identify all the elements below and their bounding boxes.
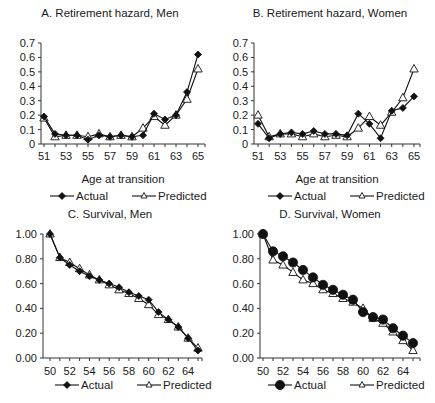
x-tick-label: 60 bbox=[143, 365, 155, 377]
y-tick-label: 0.5 bbox=[233, 66, 248, 78]
data-point-marker bbox=[358, 308, 367, 317]
legend-label-actual: Actual bbox=[81, 379, 113, 391]
data-point-marker bbox=[268, 247, 277, 256]
data-point-marker bbox=[279, 261, 287, 269]
x-tick-label: 56 bbox=[317, 365, 329, 377]
x-tick-label: 62 bbox=[162, 365, 174, 377]
series-predicted bbox=[254, 64, 418, 139]
series-line bbox=[258, 69, 414, 137]
y-tick-label: 0.4 bbox=[20, 80, 35, 92]
x-tick-label: 64 bbox=[182, 365, 194, 377]
data-point-marker bbox=[299, 275, 307, 283]
legend: ActualPredicted bbox=[55, 379, 212, 391]
x-axis-label: Age at transition bbox=[295, 173, 378, 185]
data-point-marker bbox=[368, 312, 377, 321]
x-tick-label: 61 bbox=[148, 150, 160, 162]
x-tick-label: 60 bbox=[357, 365, 369, 377]
legend: ActualPredicted bbox=[50, 190, 207, 202]
chart-title: D. Survival, Women bbox=[279, 208, 380, 220]
x-tick-label: 57 bbox=[104, 150, 116, 162]
legend-label-predicted: Predicted bbox=[376, 379, 425, 391]
y-tick-label: 0 bbox=[242, 138, 248, 150]
data-point-marker bbox=[398, 331, 407, 340]
chart-panel-a: A. Retirement hazard, Men00.10.20.30.40.… bbox=[20, 7, 207, 202]
y-tick-label: 0.00 bbox=[16, 352, 37, 364]
y-tick-label: 0 bbox=[29, 138, 35, 150]
y-tick-label: 0.40 bbox=[16, 302, 37, 314]
y-tick-label: 0.80 bbox=[233, 253, 254, 265]
legend: ActualPredicted bbox=[268, 190, 425, 202]
y-tick-label: 0.60 bbox=[233, 278, 254, 290]
data-point-marker bbox=[348, 295, 357, 304]
y-tick-label: 0.20 bbox=[233, 327, 254, 339]
x-tick-label: 59 bbox=[126, 150, 138, 162]
y-tick-label: 0.00 bbox=[233, 352, 254, 364]
data-point-marker bbox=[328, 285, 337, 294]
x-tick-label: 65 bbox=[192, 150, 204, 162]
x-tick-label: 56 bbox=[103, 365, 115, 377]
y-tick-label: 1.00 bbox=[233, 228, 254, 240]
x-tick-label: 54 bbox=[83, 365, 95, 377]
data-point-marker bbox=[195, 51, 202, 58]
x-tick-label: 53 bbox=[60, 150, 72, 162]
series-actual bbox=[41, 51, 202, 143]
data-point-marker bbox=[288, 258, 297, 267]
x-tick-label: 63 bbox=[386, 150, 398, 162]
x-tick-label: 62 bbox=[377, 365, 389, 377]
data-point-marker bbox=[399, 93, 407, 101]
x-tick-label: 51 bbox=[252, 150, 264, 162]
y-tick-label: 0.1 bbox=[233, 124, 248, 136]
x-tick-label: 58 bbox=[123, 365, 135, 377]
legend-label-actual: Actual bbox=[294, 379, 326, 391]
legend-marker-predicted bbox=[359, 193, 365, 199]
x-tick-label: 59 bbox=[341, 150, 353, 162]
chart-panel-c: C. Survival, Men0.000.200.400.600.801.00… bbox=[16, 208, 212, 391]
legend-marker-predicted bbox=[141, 193, 147, 199]
x-tick-label: 61 bbox=[363, 150, 375, 162]
legend: ActualPredicted bbox=[268, 379, 425, 391]
x-tick-label: 53 bbox=[274, 150, 286, 162]
series-predicted bbox=[259, 230, 417, 354]
legend-marker-actual bbox=[275, 380, 284, 389]
series-actual bbox=[255, 93, 418, 142]
series-actual bbox=[258, 229, 417, 347]
y-tick-label: 0.1 bbox=[20, 124, 35, 136]
x-tick-label: 50 bbox=[257, 365, 269, 377]
data-point-marker bbox=[269, 256, 277, 264]
y-tick-label: 1.00 bbox=[16, 228, 37, 240]
data-point-marker bbox=[410, 64, 418, 72]
y-tick-label: 0.60 bbox=[16, 278, 37, 290]
data-point-marker bbox=[408, 339, 417, 348]
chart-title: B. Retirement hazard, Women bbox=[253, 7, 407, 19]
data-point-marker bbox=[318, 280, 327, 289]
data-point-marker bbox=[338, 290, 347, 299]
chart-panel-d: D. Survival, Women0.000.200.400.600.801.… bbox=[233, 208, 425, 391]
x-tick-label: 55 bbox=[82, 150, 94, 162]
data-point-marker bbox=[365, 112, 373, 120]
y-tick-label: 0.3 bbox=[20, 95, 35, 107]
series-predicted bbox=[40, 64, 202, 139]
y-tick-label: 0.7 bbox=[20, 37, 35, 49]
y-tick-label: 0.7 bbox=[233, 37, 248, 49]
data-point-marker bbox=[254, 111, 262, 119]
y-tick-label: 0.2 bbox=[20, 109, 35, 121]
data-point-marker bbox=[378, 315, 387, 324]
x-tick-label: 63 bbox=[170, 150, 182, 162]
legend-marker-predicted bbox=[146, 382, 152, 388]
y-tick-label: 0.40 bbox=[233, 302, 254, 314]
chart-title: A. Retirement hazard, Men bbox=[41, 7, 178, 19]
data-point-marker bbox=[308, 273, 317, 282]
series-actual bbox=[47, 231, 202, 355]
series-line bbox=[50, 234, 198, 348]
x-tick-label: 51 bbox=[38, 150, 50, 162]
legend-label-predicted: Predicted bbox=[376, 190, 425, 202]
data-point-marker bbox=[388, 324, 397, 333]
x-tick-label: 55 bbox=[296, 150, 308, 162]
x-tick-label: 64 bbox=[397, 365, 409, 377]
legend-marker-actual bbox=[59, 193, 66, 200]
x-axis-label: Age at transition bbox=[81, 173, 164, 185]
legend-label-predicted: Predicted bbox=[158, 190, 207, 202]
y-tick-label: 0.4 bbox=[233, 80, 248, 92]
x-tick-label: 57 bbox=[319, 150, 331, 162]
y-tick-label: 0.5 bbox=[20, 66, 35, 78]
